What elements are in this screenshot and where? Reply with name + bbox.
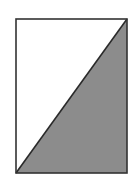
rectangle-diagonal-figure — [0, 0, 131, 182]
diagram-canvas — [0, 0, 131, 182]
